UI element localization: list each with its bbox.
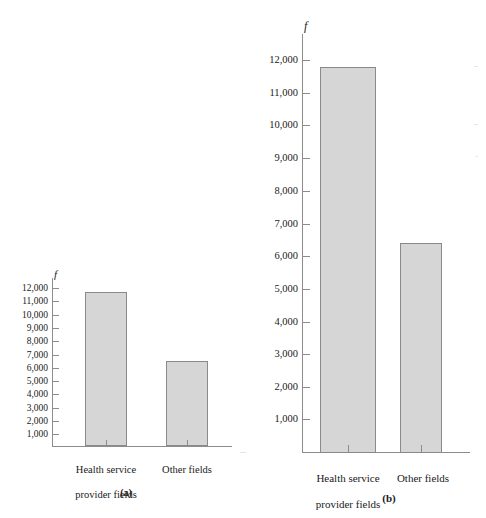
figure-b-bar-health-service-provider-fields [320,67,376,453]
figure-a-tick-11000 [53,301,59,302]
figure-a-ytick-label-5000: 5,000 [8,377,48,387]
figure-a-bar-health-service-provider-fields [85,292,127,446]
figure-b-tick-8000 [303,191,310,192]
figure-b-ytick-label-8000: 8,000 [250,186,298,197]
figure-b-tick-5000 [303,289,310,290]
figure-b-y-axis-line [302,34,303,453]
page-edge-artifact-1 [474,66,478,67]
figure-b-category-tick-1 [348,445,349,453]
figure-b-ytick-label-3000: 3,000 [250,349,298,360]
figure-b-tick-3000 [303,354,310,355]
figure-b-tick-2000 [303,387,310,388]
figure-a-category-label-2: Other fields [145,452,229,489]
figure-a-tick-9000 [53,328,59,329]
figure-a-ytick-label-6000: 6,000 [8,364,48,374]
figure-a-tick-2000 [53,421,59,422]
figure-a-tick-6000 [53,368,59,369]
figure-a-ytick-label-9000: 9,000 [8,324,48,334]
figure-a-tick-10000 [53,315,59,316]
figure-a-ytick-label-3000: 3,000 [8,404,48,414]
figure-b-caption: (b) [369,493,409,504]
figure-b: f 12,000 11,000 10,000 9,000 8,000 7,000… [246,0,486,518]
figure-a-tick-8000 [53,341,59,342]
figure-b-bar-other-fields [400,243,442,453]
figure-b-y-axis-title: f [304,20,307,32]
figure-b-tick-4000 [303,322,310,323]
page-edge-artifact-3 [475,156,478,157]
figure-b-tick-1000 [303,419,310,420]
figure-a-category-label-1-line1: Health service [56,464,156,476]
figure-a-y-axis-title: f [54,269,57,280]
figure-a-category-label-1: Health service provider fields [56,452,156,514]
figure-b-tick-9000 [303,158,310,159]
figure-a-caption: (a) [106,488,146,498]
figure-b-category-label-2-line1: Other fields [383,472,463,485]
figure-b-tick-11000 [303,93,310,94]
figure-b-ytick-label-9000: 9,000 [250,153,298,164]
figure-a-tick-1000 [53,434,59,435]
figure-a-tick-5000 [53,381,59,382]
figure-a-ytick-label-11000: 11,000 [8,297,48,307]
figure-b-ytick-label-4000: 4,000 [250,317,298,328]
figure-b-ytick-label-2000: 2,000 [250,382,298,393]
figure-a-ytick-label-12000: 12,000 [8,284,48,294]
figure-a-ytick-label-10000: 10,000 [8,311,48,321]
figure-a-category-tick-1 [106,440,107,446]
figure-b-tick-10000 [303,125,310,126]
figure-a-tick-7000 [53,355,59,356]
figure-a-ytick-label-1000: 1,000 [8,430,48,440]
page-speck-artifact [240,452,246,453]
figure-a-tick-4000 [53,394,59,395]
figure-a-tick-3000 [53,408,59,409]
figure-b-ytick-label-5000: 5,000 [250,284,298,295]
figure-a-ytick-label-2000: 2,000 [8,417,48,427]
figure-b-tick-7000 [303,224,310,225]
figure-b-ytick-label-1000: 1,000 [250,414,298,425]
figure-b-ytick-label-7000: 7,000 [250,219,298,230]
figure-a: f 12,000 11,000 10,000 9,000 8,000 7,000… [0,0,246,518]
figure-b-ytick-label-11000: 11,000 [250,88,298,99]
figure-a-category-label-2-line1: Other fields [145,464,229,476]
figure-b-ytick-label-6000: 6,000 [250,251,298,262]
figure-a-ytick-label-8000: 8,000 [8,337,48,347]
page-edge-artifact-2 [474,124,478,125]
figure-b-tick-12000 [303,60,310,61]
figure-a-bar-other-fields [166,361,208,446]
figure-a-ytick-label-4000: 4,000 [8,390,48,400]
figure-b-ytick-label-12000: 12,000 [250,55,298,66]
figure-a-ytick-label-7000: 7,000 [8,351,48,361]
figure-a-category-tick-2 [187,440,188,446]
figure-b-ytick-label-10000: 10,000 [250,120,298,131]
figure-b-category-tick-2 [421,445,422,453]
figure-a-x-axis-line [52,446,232,447]
figure-a-tick-12000 [53,288,59,289]
figure-b-tick-6000 [303,256,310,257]
